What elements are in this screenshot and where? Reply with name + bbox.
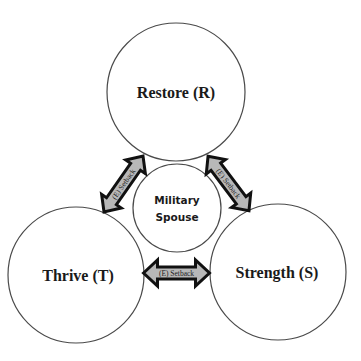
diagram-canvas: Restore (R) Thrive (T) Strength (S) Mili… bbox=[0, 0, 361, 361]
node-military-spouse: Military Spouse bbox=[133, 164, 221, 252]
thrive-label: Thrive (T) bbox=[42, 267, 114, 285]
edge-thrive-strength: (E) Setback bbox=[144, 260, 210, 286]
node-strength: Strength (S) bbox=[210, 204, 346, 340]
node-thrive: Thrive (T) bbox=[8, 207, 144, 343]
military-spouse-label-line2: Spouse bbox=[155, 211, 198, 223]
setback-label: (E) Setback bbox=[159, 269, 194, 278]
restore-label: Restore (R) bbox=[137, 84, 215, 102]
diagram-svg: Restore (R) Thrive (T) Strength (S) Mili… bbox=[0, 0, 361, 361]
military-spouse-circle bbox=[133, 164, 221, 252]
node-restore: Restore (R) bbox=[107, 23, 245, 161]
strength-label: Strength (S) bbox=[236, 264, 319, 282]
military-spouse-label-line1: Military bbox=[154, 194, 200, 206]
